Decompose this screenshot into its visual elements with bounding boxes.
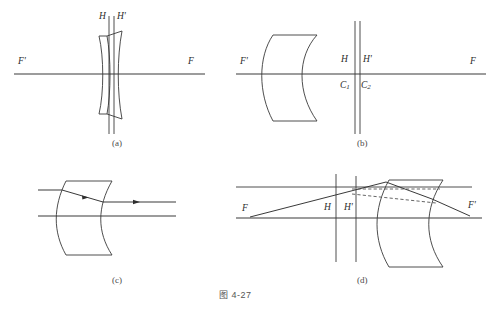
panel-d-internal-ray (386, 182, 432, 199)
panel-d-label-h-prime: H' (344, 203, 353, 213)
panel-a-label-h: H (99, 12, 106, 22)
panel-d-label-f-prime-right: F' (468, 201, 476, 211)
panel-b-label-c1: C1 (340, 81, 350, 91)
panel-d-label-f-left: F (242, 204, 248, 214)
panel-b-lens-body (262, 35, 317, 121)
panel-b-label-c2: C2 (361, 81, 371, 91)
panel-c-tag: (c) (112, 275, 122, 285)
panel-c-internal-ray-arrow (82, 196, 89, 200)
panel-b-label-c1-subscript: 1 (346, 83, 350, 91)
panel-c-emergent-ray-arrow (133, 200, 140, 205)
panel-a-label-f-right: F (188, 57, 194, 67)
panel-d-emergent-ray (432, 199, 470, 216)
panel-d-label-h: H (324, 203, 331, 213)
panel-a-label-h-prime: H' (117, 12, 126, 22)
panel-b-label-h: H (341, 55, 348, 65)
panel-c-lens-body (56, 181, 112, 255)
figure-caption: 图 4-27 (219, 288, 252, 301)
panel-b-label-h-prime: H' (363, 55, 372, 65)
panel-b-tag: (b) (357, 138, 368, 148)
figure-vector-canvas (0, 0, 498, 312)
panel-d-tag: (d) (357, 275, 368, 285)
panel-d-graphics (236, 174, 482, 267)
panel-d-lens-body (377, 180, 443, 267)
panel-b-label-f-prime-left: F' (240, 57, 248, 67)
panel-b-label-f-right: F (470, 57, 476, 67)
panel-c-graphics (38, 181, 176, 255)
panel-a-graphics (14, 16, 205, 134)
panel-a-tag: (a) (112, 138, 122, 148)
panel-a-lens-left-element (99, 36, 107, 114)
panel-b-graphics (236, 21, 486, 134)
optics-figure-4-27: F' F H H' (a) F' F H H' C1 C2 (b) (c) F … (0, 0, 498, 312)
panel-a-label-f-prime-left: F' (18, 57, 26, 67)
panel-b-label-c2-subscript: 2 (367, 83, 371, 91)
